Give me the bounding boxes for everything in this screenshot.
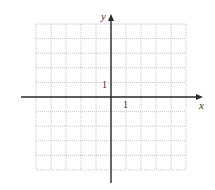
x-axis-label: x xyxy=(198,99,204,111)
y-axis-arrow-icon xyxy=(108,14,114,21)
coordinate-plane: x y 1 1 xyxy=(0,0,215,190)
y-axis-label: y xyxy=(100,10,106,22)
y-unit-tick-label: 1 xyxy=(102,79,107,90)
x-unit-tick-label: 1 xyxy=(123,99,128,110)
